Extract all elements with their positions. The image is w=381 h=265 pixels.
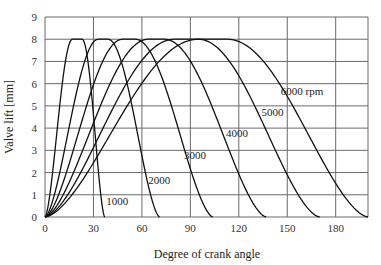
curve-label: 5000 <box>261 106 284 118</box>
valve-lift-chart: 0306090120150180 0123456789 100020003000… <box>0 0 381 265</box>
x-tick-label: 60 <box>136 222 148 234</box>
y-axis-label: Valve lift [mm] <box>2 80 16 154</box>
y-tick-label: 0 <box>32 211 38 223</box>
x-tick-label: 150 <box>279 222 296 234</box>
x-tick-label: 180 <box>327 222 344 234</box>
y-tick-label: 6 <box>32 78 38 90</box>
curve-label: 3000 <box>184 149 207 161</box>
y-axis-ticks: 0123456789 <box>32 11 38 223</box>
curve-label: 4000 <box>226 127 249 139</box>
y-tick-label: 8 <box>32 33 38 45</box>
y-tick-label: 9 <box>32 11 38 23</box>
x-tick-label: 0 <box>42 222 48 234</box>
y-tick-label: 2 <box>32 167 38 179</box>
y-tick-label: 4 <box>32 122 38 134</box>
x-axis-ticks: 0306090120150180 <box>42 222 344 234</box>
x-axis-label: Degree of crank angle <box>154 247 260 261</box>
y-tick-label: 3 <box>32 144 38 156</box>
y-tick-label: 1 <box>32 189 38 201</box>
curve-label: 1000 <box>106 195 128 207</box>
y-tick-label: 5 <box>32 100 38 112</box>
x-tick-label: 90 <box>185 222 197 234</box>
curve-label: 6000 rpm <box>281 85 324 97</box>
curve-label: 2000 <box>148 174 171 186</box>
y-tick-label: 7 <box>32 55 38 67</box>
x-tick-label: 120 <box>231 222 248 234</box>
x-tick-label: 30 <box>88 222 100 234</box>
